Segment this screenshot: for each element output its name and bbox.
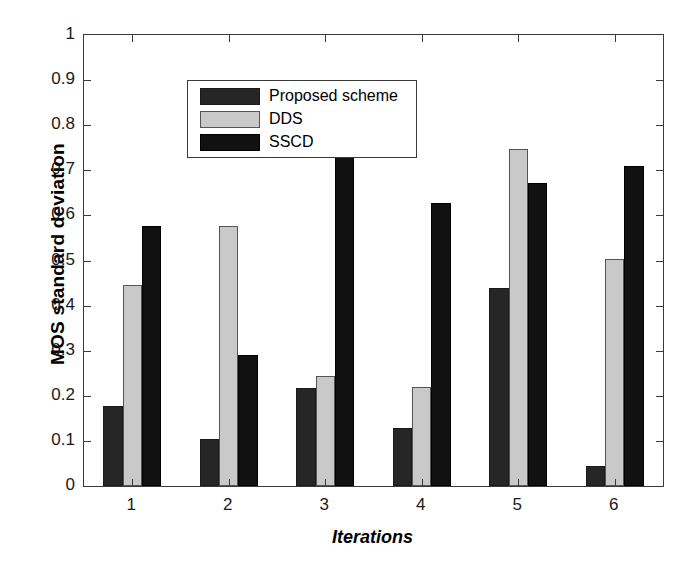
x-tick-label-2: 2 [208, 495, 248, 515]
y-tick-0.3 [84, 351, 91, 352]
y-tick-right-0.8 [656, 125, 663, 126]
y-tick-0.8 [84, 125, 91, 126]
x-tick-label-3: 3 [304, 495, 344, 515]
y-tick-label-0.3: 0.3 [13, 340, 75, 360]
x-tick-label-4: 4 [401, 495, 441, 515]
bar-sscd-iteration-5 [528, 183, 547, 486]
legend-item-1: DDS [200, 109, 303, 129]
bar-proposed-scheme-iteration-3 [296, 388, 315, 486]
x-tick-top-6 [615, 35, 616, 42]
bar-dds-iteration-5 [509, 149, 528, 486]
y-tick-label-0.4: 0.4 [13, 295, 75, 315]
y-tick-0.4 [84, 306, 91, 307]
x-tick-label-6: 6 [594, 495, 634, 515]
x-axis-title: Iterations [83, 527, 662, 548]
y-tick-right-0.6 [656, 215, 663, 216]
x-tick-4 [422, 479, 423, 486]
bar-sscd-iteration-6 [624, 166, 643, 486]
legend-swatch-proposed-scheme [200, 88, 260, 105]
x-tick-top-3 [325, 35, 326, 42]
y-tick-label-0.6: 0.6 [13, 204, 75, 224]
y-tick-label-0.9: 0.9 [13, 69, 75, 89]
bar-proposed-scheme-iteration-2 [200, 439, 219, 486]
y-tick-label-0.1: 0.1 [13, 430, 75, 450]
y-tick-label-0.8: 0.8 [13, 114, 75, 134]
bar-chart-figure: MOS standard deviation Proposed scheme D… [0, 0, 694, 570]
legend-swatch-dds [200, 111, 260, 128]
x-tick-top-5 [518, 35, 519, 42]
bar-dds-iteration-3 [316, 376, 335, 486]
y-tick-right-0.3 [656, 351, 663, 352]
bar-proposed-scheme-iteration-1 [103, 406, 122, 486]
y-tick-right-0.2 [656, 396, 663, 397]
legend-label-sscd: SSCD [269, 133, 313, 151]
y-tick-0.5 [84, 261, 91, 262]
y-tick-label-0.2: 0.2 [13, 385, 75, 405]
x-tick-6 [615, 479, 616, 486]
y-tick-label-0.7: 0.7 [13, 159, 75, 179]
bar-sscd-iteration-1 [142, 226, 161, 486]
x-tick-label-1: 1 [111, 495, 151, 515]
legend-label-dds: DDS [269, 110, 303, 128]
legend: Proposed scheme DDS SSCD [187, 80, 417, 158]
bar-dds-iteration-6 [605, 259, 624, 486]
bar-dds-iteration-4 [412, 387, 431, 486]
x-tick-top-2 [229, 35, 230, 42]
x-tick-3 [325, 479, 326, 486]
legend-item-2: SSCD [200, 132, 313, 152]
y-tick-0.6 [84, 215, 91, 216]
bar-proposed-scheme-iteration-6 [586, 466, 605, 486]
y-tick-label-0.5: 0.5 [13, 250, 75, 270]
bar-dds-iteration-1 [123, 285, 142, 486]
bar-sscd-iteration-2 [238, 355, 257, 486]
x-tick-top-1 [132, 35, 133, 42]
y-tick-right-0.4 [656, 306, 663, 307]
y-tick-0.7 [84, 170, 91, 171]
bar-proposed-scheme-iteration-5 [489, 288, 508, 486]
y-tick-0.9 [84, 80, 91, 81]
y-tick-right-0.9 [656, 80, 663, 81]
y-tick-right-0.5 [656, 261, 663, 262]
y-tick-label-1: 1 [13, 24, 75, 44]
x-tick-2 [229, 479, 230, 486]
x-tick-5 [518, 479, 519, 486]
plot-area: Proposed scheme DDS SSCD [83, 34, 664, 487]
bar-dds-iteration-2 [219, 226, 238, 486]
legend-label-proposed-scheme: Proposed scheme [269, 87, 398, 105]
bar-proposed-scheme-iteration-4 [393, 428, 412, 486]
legend-item-0: Proposed scheme [200, 86, 398, 106]
legend-swatch-sscd [200, 134, 260, 151]
y-tick-right-0.7 [656, 170, 663, 171]
y-tick-0.1 [84, 441, 91, 442]
x-tick-top-4 [422, 35, 423, 42]
x-tick-1 [132, 479, 133, 486]
y-tick-right-0.1 [656, 441, 663, 442]
x-tick-label-5: 5 [497, 495, 537, 515]
y-tick-0.2 [84, 396, 91, 397]
bar-sscd-iteration-3 [335, 127, 354, 486]
bar-sscd-iteration-4 [431, 203, 450, 486]
y-tick-label-0: 0 [13, 475, 75, 495]
